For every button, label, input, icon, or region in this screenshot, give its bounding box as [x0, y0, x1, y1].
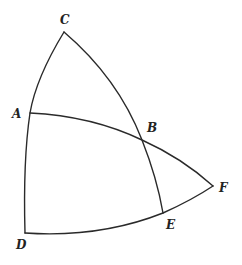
point-label-C: C	[60, 14, 70, 26]
diagram-lines	[0, 0, 242, 265]
point-label-D: D	[16, 239, 26, 251]
arc-C-A-D	[25, 32, 64, 233]
arc-A-B-F	[30, 113, 213, 186]
arc-D-E-F	[25, 186, 213, 234]
point-label-E: E	[166, 219, 175, 231]
point-label-A: A	[12, 108, 21, 120]
spherical-triangle-diagram: C A B F E D	[0, 0, 242, 265]
point-label-F: F	[219, 182, 228, 194]
point-label-B: B	[147, 122, 157, 134]
